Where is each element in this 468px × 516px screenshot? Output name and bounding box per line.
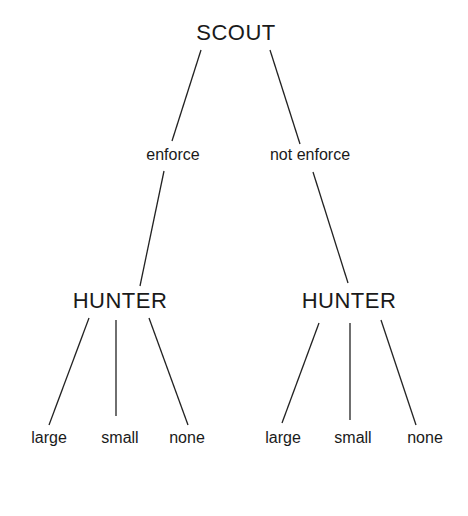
- leaf-enforce-small: small: [101, 430, 138, 446]
- action-label-enforce: enforce: [146, 147, 199, 163]
- tree-edge: [282, 323, 319, 423]
- tree-edge: [313, 172, 348, 283]
- leaf-not-enforce-small: small: [334, 430, 371, 446]
- hunter-node-enforce: HUNTER: [73, 290, 168, 312]
- tree-edge: [149, 318, 188, 425]
- tree-edge: [172, 50, 201, 141]
- leaf-not-enforce-large: large: [265, 430, 301, 446]
- tree-edge: [49, 318, 89, 425]
- leaf-enforce-large: large: [31, 430, 67, 446]
- root-node-scout: SCOUT: [196, 22, 276, 44]
- tree-edge: [140, 171, 164, 286]
- leaf-enforce-none: none: [169, 430, 205, 446]
- hunter-node-not-enforce: HUNTER: [302, 290, 397, 312]
- leaf-not-enforce-none: none: [407, 430, 443, 446]
- tree-edge: [270, 50, 300, 144]
- tree-edge: [381, 320, 416, 425]
- tree-edges: [0, 0, 468, 516]
- action-label-not-enforce: not enforce: [270, 147, 350, 163]
